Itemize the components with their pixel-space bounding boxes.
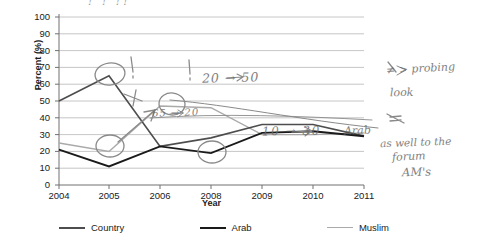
legend-item-arab[interactable]: Arab [200,222,252,233]
line-chart-plot [0,0,480,247]
chart-container: ! ! !! [0,0,480,247]
hw-neq-mark [387,114,404,123]
y-axis-title: Percent (%) [33,5,43,125]
hw-neq-slash [388,62,396,72]
series-line-muslim [59,106,364,151]
y-tick-label: 0 [20,179,50,190]
legend-label-arab: Arab [232,222,252,233]
x-axis-title: Year [59,198,364,208]
series-line-arab [59,131,364,166]
legend-swatch-muslim [327,227,353,228]
hw-circle-2005-low [96,135,124,157]
hw-exclaim-2 [189,60,190,80]
handwritten-overlay [94,57,406,163]
gridlines [59,17,364,168]
y-tick-label: 30 [20,129,50,140]
legend-item-muslim[interactable]: Muslim [327,222,389,233]
hw-slash-country [124,90,142,106]
hw-arrow-2050 [227,74,243,81]
legend-label-country: Country [91,222,124,233]
hw-circle-country-peak [94,61,127,87]
hw-gt-sign [397,66,406,75]
chart-legend: Country Arab Muslim [59,222,389,233]
y-tick-label: 10 [20,162,50,173]
y-tick-marks [55,17,59,185]
legend-swatch-arab [200,227,226,229]
x-tick-marks [59,185,364,189]
legend-item-country[interactable]: Country [59,222,124,233]
y-tick-label: 20 [20,145,50,156]
legend-swatch-country [59,227,85,229]
legend-label-muslim: Muslim [359,222,389,233]
